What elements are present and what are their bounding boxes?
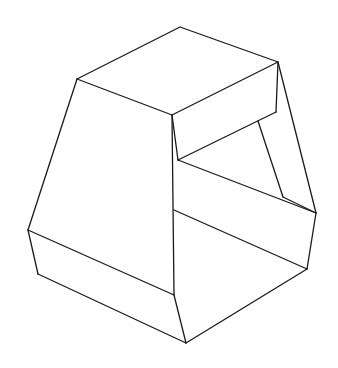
right-short-edge (307, 213, 316, 269)
left-short-edge (28, 230, 38, 274)
bottom-right-edge (186, 269, 307, 343)
inner-diagonal-edge (258, 121, 283, 197)
polyhedron-drawing (0, 0, 338, 368)
center-vertical-edge (172, 115, 174, 295)
bottom-left-edge (38, 274, 186, 343)
box-right-edge (276, 62, 278, 112)
mid-horizontal-edge (174, 210, 307, 269)
box-bottom-edge (178, 112, 276, 160)
center-lower-edge (174, 295, 186, 343)
box-to-right-edge (178, 160, 316, 213)
left-face-lower-edge (28, 230, 174, 295)
top-face (77, 27, 278, 115)
right-outer-edge (278, 62, 316, 213)
left-upper-edge (28, 79, 77, 230)
polyhedron-figure (0, 0, 338, 368)
